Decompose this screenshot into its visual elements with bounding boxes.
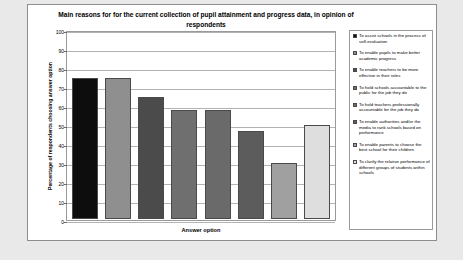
legend-item[interactable]: To enable parents to choose the best sch…	[353, 142, 430, 153]
bar	[138, 97, 164, 219]
legend-swatch-icon	[353, 120, 357, 124]
y-tick-mark	[64, 70, 67, 71]
bar	[304, 125, 330, 219]
bar	[105, 78, 131, 219]
y-tick-label: 50	[58, 124, 64, 130]
y-tick-label: 10	[58, 200, 64, 206]
legend-swatch-icon	[353, 51, 357, 55]
legend-item[interactable]: To assist schools in the process of self…	[353, 33, 430, 44]
y-tick-mark	[64, 127, 67, 128]
legend-item[interactable]: To hold schools accountable to the publi…	[353, 85, 430, 96]
legend-swatch-icon	[353, 34, 357, 38]
y-tick-mark	[64, 108, 67, 109]
bar	[72, 78, 98, 219]
page-background: Main reasons for for the current collect…	[0, 0, 463, 260]
y-tick-label: 0	[61, 219, 64, 225]
y-tick-mark	[64, 222, 67, 223]
gridline	[67, 222, 335, 223]
legend-item-label: To enable authorities and/or the media t…	[359, 119, 430, 136]
legend-item[interactable]: To enable authorities and/or the media t…	[353, 119, 430, 136]
y-tick-mark	[64, 203, 67, 204]
y-tick-mark	[64, 184, 67, 185]
bar	[171, 110, 197, 219]
y-tick-label: 80	[58, 67, 64, 73]
y-tick-label: 60	[58, 105, 64, 111]
y-tick-mark	[64, 165, 67, 166]
legend-item-label: To enable pupils to make better academic…	[359, 50, 430, 61]
bar	[205, 110, 231, 219]
plot-wrapper: 1009080706050403020100	[66, 31, 336, 221]
y-tick-mark	[64, 89, 67, 90]
y-tick-label: 40	[58, 143, 64, 149]
legend-item-label: To clarify the relative performance of d…	[359, 159, 430, 176]
y-tick-label: 30	[58, 162, 64, 168]
y-tick-mark	[64, 51, 67, 52]
plot-area: 1009080706050403020100	[66, 31, 336, 221]
legend-item-label: To assist schools in the process of self…	[359, 33, 430, 44]
legend-swatch-icon	[353, 160, 357, 164]
y-tick-mark	[64, 32, 67, 33]
chart-card: Main reasons for for the current collect…	[27, 4, 437, 241]
legend-item[interactable]: To hold teachers professionally accounta…	[353, 102, 430, 113]
y-tick-label: 100	[56, 29, 64, 35]
legend-item[interactable]: To enable pupils to make better academic…	[353, 50, 430, 61]
legend-swatch-icon	[353, 103, 357, 107]
bar	[238, 131, 264, 219]
chart-legend: To assist schools in the process of self…	[349, 30, 433, 230]
legend-item[interactable]: To enable teachers to be more effective …	[353, 67, 430, 78]
bar-series	[68, 33, 334, 219]
x-axis-title: Answer option	[66, 227, 336, 233]
legend-swatch-icon	[353, 143, 357, 147]
bar	[271, 163, 297, 219]
y-tick-label: 20	[58, 181, 64, 187]
legend-item-label: To enable teachers to be more effective …	[359, 67, 430, 78]
legend-item[interactable]: To clarify the relative performance of d…	[353, 159, 430, 176]
legend-item-label: To enable parents to choose the best sch…	[359, 142, 430, 153]
chart-title: Main reasons for for the current collect…	[46, 10, 366, 29]
y-tick-mark	[64, 146, 67, 147]
y-axis-title: Percentage of respondents choosing answe…	[47, 51, 53, 201]
legend-item-label: To hold teachers professionally accounta…	[359, 102, 430, 113]
legend-item-label: To hold schools accountable to the publi…	[359, 85, 430, 96]
y-tick-label: 90	[58, 48, 64, 54]
y-tick-label: 70	[58, 86, 64, 92]
legend-swatch-icon	[353, 68, 357, 72]
legend-swatch-icon	[353, 86, 357, 90]
